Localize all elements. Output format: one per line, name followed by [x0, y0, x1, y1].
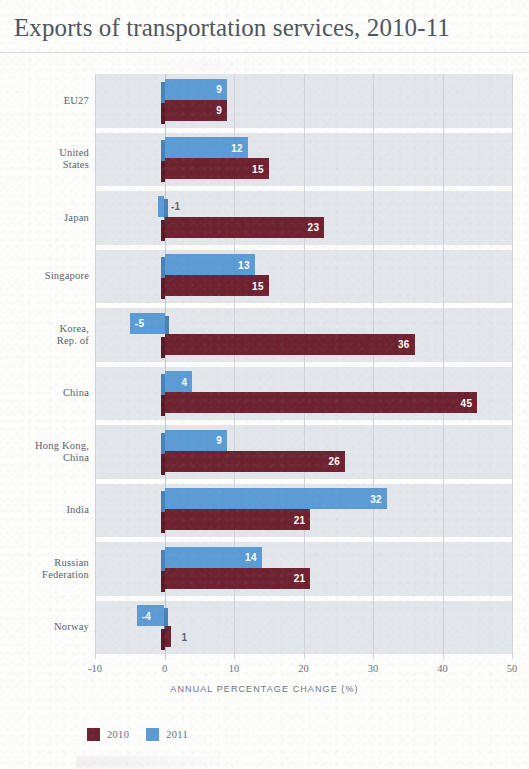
bar-value-label: 14: [245, 552, 257, 563]
x-axis-ticks: -1001020304050: [95, 663, 512, 681]
bar-value-label: 23: [308, 222, 320, 233]
category-label-line: Hong Kong,: [3, 440, 89, 452]
category-label-line: China: [3, 452, 89, 464]
bar-2010-russian-federation: 21: [165, 568, 311, 589]
category-label-line: Federation: [3, 569, 89, 581]
page-title: Exports of transportation services, 2010…: [14, 14, 450, 42]
title-divider: [0, 52, 529, 53]
category-label-line: United: [3, 147, 89, 159]
gridline: [512, 74, 513, 659]
category-label-japan: Japan: [3, 212, 89, 224]
bar-value-label: 15: [252, 163, 264, 174]
bar-2011-china: 4: [165, 371, 193, 392]
bar-2011-singapore: 13: [165, 254, 255, 275]
bar-2010-india: 21: [165, 509, 311, 530]
scan-artifact: [76, 756, 226, 768]
bar-value-label: 21: [294, 514, 306, 525]
category-label-eu27: EU27: [3, 95, 89, 107]
bar-value-label: 26: [328, 456, 340, 467]
bar-value-label: 4: [181, 376, 187, 387]
category-label-line: Korea,: [3, 323, 89, 335]
legend-swatch-2011: [146, 728, 159, 741]
category-label-line: EU27: [3, 95, 89, 107]
category-label-united-states: UnitedStates: [3, 147, 89, 171]
bar-value-label: -1: [171, 201, 181, 212]
legend-label-2011: 2011: [166, 729, 188, 740]
x-tick-10: 10: [229, 663, 240, 674]
bar-value-label: 45: [461, 397, 473, 408]
bar-value-label: 13: [238, 259, 250, 270]
bar-value-label: 12: [231, 142, 243, 153]
scan-artifact-top: [150, 56, 270, 74]
bar-value-label: 9: [216, 435, 222, 446]
bar-2010-united-states: 15: [165, 158, 269, 179]
bar-2010-eu27: 9: [165, 100, 228, 121]
gridline: [443, 74, 444, 659]
bar-2011-japan: -1: [158, 196, 165, 217]
bar-2010-hong-kong-china: 26: [165, 451, 346, 472]
legend-item-2010: 2010: [87, 728, 129, 741]
category-label-line: Singapore: [3, 270, 89, 282]
category-label-line: Rep. of: [3, 335, 89, 347]
x-axis-title: ANNUAL PERCENTAGE CHANGE (%): [0, 684, 529, 694]
bar-2010-korea-rep-of: 36: [165, 334, 415, 355]
bar-2011-eu27: 9: [165, 79, 228, 100]
bar-value-label: -4: [142, 610, 152, 621]
bar-2011-norway: -4: [137, 605, 165, 626]
category-label-india: India: [3, 504, 89, 516]
legend-swatch-2010: [87, 728, 100, 741]
chart-plot-area: 991215-1231315-53644592632211421-41: [95, 74, 512, 659]
category-label-line: Russian: [3, 557, 89, 569]
category-label-korea-rep-of: Korea,Rep. of: [3, 323, 89, 347]
x-tick-20: 20: [298, 663, 309, 674]
bar-2011-russian-federation: 14: [165, 547, 262, 568]
bar-2010-norway: 1: [165, 626, 172, 647]
category-label-singapore: Singapore: [3, 270, 89, 282]
category-label-russian-federation: RussianFederation: [3, 557, 89, 581]
legend-item-2011: 2011: [146, 728, 188, 741]
x-tick-neg10: -10: [88, 663, 102, 674]
bar-value-label: 15: [252, 280, 264, 291]
bar-value-label: -5: [135, 318, 145, 329]
category-label-line: China: [3, 387, 89, 399]
gridline: [373, 74, 374, 659]
bar-value-label: 21: [294, 573, 306, 584]
bar-2011-united-states: 12: [165, 137, 248, 158]
x-tick-40: 40: [437, 663, 448, 674]
category-label-line: India: [3, 504, 89, 516]
bar-2011-hong-kong-china: 9: [165, 430, 228, 451]
y-axis-category-labels: EU27UnitedStatesJapanSingaporeKorea,Rep.…: [0, 74, 89, 659]
bar-2011-india: 32: [165, 488, 387, 509]
chart-legend: 20102011: [87, 728, 188, 741]
bar-value-label: 36: [398, 339, 410, 350]
bar-2011-korea-rep-of: -5: [130, 313, 165, 334]
gridline: [95, 74, 96, 659]
category-label-hong-kong-china: Hong Kong,China: [3, 440, 89, 464]
category-label-line: Japan: [3, 212, 89, 224]
category-label-china: China: [3, 387, 89, 399]
bar-2010-china: 45: [165, 392, 478, 413]
category-label-norway: Norway: [3, 621, 89, 633]
bar-value-label: 32: [370, 493, 382, 504]
bar-value-label: 9: [216, 84, 222, 95]
category-label-line: States: [3, 159, 89, 171]
bar-2010-japan: 23: [165, 217, 325, 238]
category-label-line: Norway: [3, 621, 89, 633]
legend-label-2010: 2010: [107, 729, 129, 740]
bar-value-label: 1: [182, 631, 188, 642]
x-tick-0: 0: [162, 663, 167, 674]
x-tick-50: 50: [507, 663, 518, 674]
bar-value-label: 9: [216, 105, 222, 116]
x-tick-30: 30: [368, 663, 379, 674]
bar-2010-singapore: 15: [165, 275, 269, 296]
